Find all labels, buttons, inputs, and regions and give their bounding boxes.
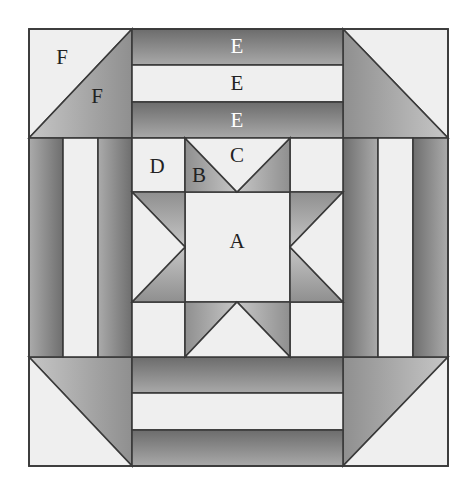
border-strips-right — [343, 138, 448, 357]
border-strip-dark — [29, 138, 63, 357]
star-corner-square — [290, 138, 343, 192]
corner-block-top-left — [29, 29, 132, 138]
label-b: B — [192, 163, 206, 187]
corner-block-top-right — [343, 29, 448, 138]
label-e-bottom: E — [231, 108, 244, 132]
border-strip-dark — [132, 357, 343, 393]
corner-block-bottom-right — [343, 357, 448, 466]
border-strip-dark — [343, 138, 378, 357]
quilt-block-diagram: F F E E E D B C A — [0, 0, 470, 497]
border-strip-dark — [132, 430, 343, 466]
border-strip-dark — [413, 138, 448, 357]
label-a: A — [229, 229, 245, 253]
label-c: C — [230, 143, 244, 167]
label-e-middle: E — [231, 71, 244, 95]
star-corner-square — [132, 302, 185, 357]
border-strip-light — [63, 138, 98, 357]
label-d: D — [149, 154, 164, 178]
border-strips-bottom — [132, 357, 343, 466]
label-f-dark: F — [91, 84, 103, 108]
border-strip-light — [378, 138, 413, 357]
label-f-light: F — [56, 45, 68, 69]
star-corner-square — [290, 302, 343, 357]
corner-block-bottom-left — [29, 357, 132, 466]
border-strips-left — [29, 138, 132, 357]
border-strip-light — [132, 393, 343, 430]
border-strip-dark — [98, 138, 132, 357]
label-e-top: E — [231, 34, 244, 58]
